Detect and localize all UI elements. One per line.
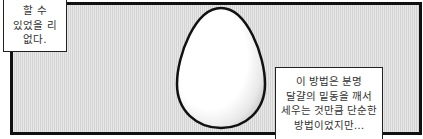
egg-illustration: [175, 6, 267, 130]
caption-line: 없다.: [13, 32, 56, 47]
caption-line: 할 수: [13, 3, 56, 18]
narration-box-right: 이 방법은 분명 달걀의 밑동을 깨서 세우는 것만큼 단순한 방법이었지만…: [275, 67, 383, 139]
caption-line: 달걀의 밑동을 깨서: [281, 89, 378, 104]
caption-line: 세우는 것만큼 단순한: [281, 103, 378, 118]
caption-line: 있었을 리: [13, 18, 56, 33]
narration-box-left: 할 수 있었을 리 없다.: [3, 0, 67, 52]
caption-line: 이 방법은 분명: [281, 74, 378, 89]
caption-line: 방법이었지만…: [281, 118, 378, 133]
